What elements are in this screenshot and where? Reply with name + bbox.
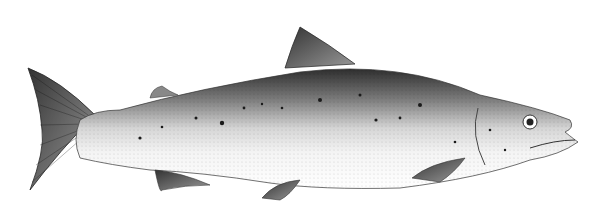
dorsal-fin [285,27,355,68]
salmon-illustration [0,0,614,211]
eye [523,115,537,129]
illustration-canvas [0,0,614,211]
